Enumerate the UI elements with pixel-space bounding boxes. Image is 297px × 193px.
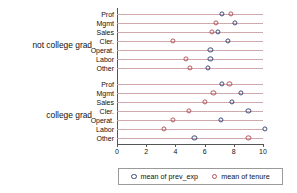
x-tick-label: 6 (203, 148, 207, 155)
point-prev-exp (233, 20, 238, 25)
plot-area: 0 2 4 6 8 10 Prof Mgmt Sales Cler. (117, 8, 263, 144)
legend: mean of prev_exp mean of tenure (118, 168, 283, 185)
x-tick-mark (263, 144, 264, 147)
category-label-mgmt-ncg: Mgmt (97, 20, 115, 27)
point-tenure (170, 117, 175, 122)
point-prev-exp (225, 38, 230, 43)
x-tick-label: 8 (232, 148, 236, 155)
row-dotted-line (117, 59, 263, 60)
point-prev-exp (208, 56, 213, 61)
point-prev-exp (215, 29, 220, 34)
group-label-not-college-grad: not college grad (6, 40, 92, 50)
point-prev-exp (262, 126, 267, 131)
group-label-college-grad: college grad (6, 110, 92, 120)
point-prev-exp (220, 11, 225, 16)
point-tenure (209, 29, 214, 34)
point-prev-exp (208, 47, 213, 52)
category-label-other-cg: Other (96, 135, 114, 142)
x-tick-mark (205, 144, 206, 147)
legend-item-tenure: mean of tenure (212, 172, 270, 181)
point-prev-exp (220, 81, 225, 86)
x-tick-label: 0 (115, 148, 119, 155)
point-tenure (227, 81, 232, 86)
x-tick-mark (117, 144, 118, 147)
point-tenure (214, 20, 219, 25)
row-dotted-line (117, 41, 263, 42)
point-tenure (170, 38, 175, 43)
category-label-mgmt-cg: Mgmt (97, 90, 115, 97)
legend-item-prev-exp: mean of prev_exp (131, 172, 198, 181)
dot-chart: not college grad college grad 0 2 4 6 8 … (0, 0, 297, 193)
point-prev-exp (239, 90, 244, 95)
point-tenure (183, 56, 188, 61)
category-label-other-ncg: Other (96, 65, 114, 72)
row-dotted-line (117, 84, 263, 85)
point-prev-exp (218, 117, 223, 122)
legend-label-tenure: mean of tenure (221, 172, 269, 181)
point-prev-exp (192, 135, 197, 140)
x-tick-label: 10 (259, 148, 267, 155)
point-tenure (246, 135, 251, 140)
x-tick-label: 4 (173, 148, 177, 155)
open-circle-icon (131, 174, 136, 179)
category-label-prof-cg: Prof (101, 81, 114, 88)
category-label-labor-cg: Labor (96, 126, 114, 133)
row-dotted-line (117, 23, 263, 24)
row-dotted-line (117, 14, 263, 15)
category-label-cler-cg: Cler. (100, 108, 114, 115)
category-label-sales-ncg: Sales (96, 29, 114, 36)
point-tenure (186, 108, 191, 113)
x-axis-line (117, 144, 263, 145)
open-circle-icon (212, 174, 217, 179)
row-dotted-line (117, 50, 263, 51)
row-dotted-line (117, 120, 263, 121)
row-dotted-line (117, 32, 263, 33)
point-tenure (187, 65, 192, 70)
category-label-operat-ncg: Operat. (91, 47, 114, 54)
x-tick-mark (234, 144, 235, 147)
point-tenure (228, 11, 233, 16)
point-tenure (202, 99, 207, 104)
x-tick-mark (175, 144, 176, 147)
category-label-labor-ncg: Labor (96, 56, 114, 63)
point-tenure (211, 90, 216, 95)
x-tick-mark (146, 144, 147, 147)
row-dotted-line (117, 102, 263, 103)
point-prev-exp (230, 99, 235, 104)
row-dotted-line (117, 138, 263, 139)
point-prev-exp (205, 65, 210, 70)
legend-label-prev-exp: mean of prev_exp (141, 172, 199, 181)
point-tenure (161, 126, 166, 131)
point-prev-exp (246, 108, 251, 113)
category-label-prof-ncg: Prof (101, 11, 114, 18)
category-label-sales-cg: Sales (96, 99, 114, 106)
row-dotted-line (117, 129, 263, 130)
x-tick-label: 2 (144, 148, 148, 155)
y-axis-line (117, 8, 118, 144)
category-label-cler-ncg: Cler. (100, 38, 114, 45)
category-label-operat-cg: Operat. (91, 117, 114, 124)
